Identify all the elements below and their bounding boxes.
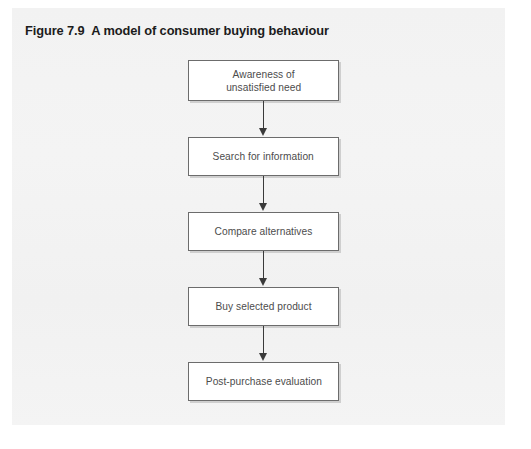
arrow-line: [263, 101, 264, 130]
figure-caption: Figure 7.9A model of consumer buying beh…: [25, 23, 329, 38]
flow-node-label-line1: Awareness of: [232, 68, 294, 80]
arrow-head-icon: [259, 353, 267, 361]
flow-node-evaluate: Post-purchase evaluation: [188, 362, 339, 401]
flowchart: Awareness of unsatisfied need Search for…: [188, 60, 341, 401]
flow-node-label: Search for information: [213, 150, 314, 163]
arrow-line: [263, 251, 264, 280]
figure-title-text: A model of consumer buying behaviour: [91, 23, 329, 38]
flow-arrow-down-2: [188, 176, 339, 212]
arrow-head-icon: [259, 278, 267, 286]
arrow-line: [263, 326, 264, 355]
flow-node-label: Post-purchase evaluation: [205, 375, 321, 388]
flow-node-label: Awareness of unsatisfied need: [226, 68, 301, 94]
arrow-head-icon: [259, 203, 267, 211]
flow-node-label: Buy selected product: [215, 300, 311, 313]
flow-node-buy: Buy selected product: [188, 287, 339, 326]
flow-arrow-down-4: [188, 326, 339, 362]
flow-node-search: Search for information: [188, 137, 339, 176]
figure-number: Figure 7.9: [25, 23, 85, 38]
flow-arrow-down-3: [188, 251, 339, 287]
flow-node-label-line2: unsatisfied need: [226, 81, 301, 93]
flow-arrow-down-1: [188, 101, 339, 137]
arrow-line: [263, 176, 264, 205]
figure-root: Figure 7.9A model of consumer buying beh…: [0, 0, 531, 449]
flow-node-label: Compare alternatives: [215, 225, 313, 238]
flow-node-awareness: Awareness of unsatisfied need: [188, 60, 339, 101]
arrow-head-icon: [259, 128, 267, 136]
flow-node-compare: Compare alternatives: [188, 212, 339, 251]
